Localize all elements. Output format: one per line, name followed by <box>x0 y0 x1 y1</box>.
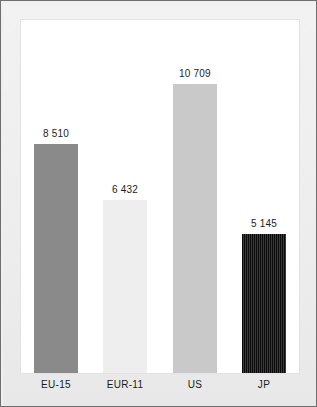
bar-fill-eur-11 <box>103 200 147 373</box>
bar-eur-11[interactable] <box>103 200 147 373</box>
bar-eu-15[interactable] <box>34 144 78 373</box>
bar-fill-jp <box>242 234 286 373</box>
value-label-us: 10 709 <box>155 68 235 79</box>
value-label-eur-11: 6 432 <box>85 184 165 195</box>
bar-chart-figure: 8 510 6 432 10 709 5 145 EU-15 EUR-11 US… <box>0 0 317 407</box>
bar-jp[interactable] <box>242 234 286 373</box>
bar-us[interactable] <box>173 84 217 373</box>
bar-fill-us <box>173 84 217 373</box>
category-label-jp: JP <box>224 379 304 390</box>
category-label-us: US <box>155 379 235 390</box>
value-label-eu-15: 8 510 <box>16 128 96 139</box>
bar-fill-eu-15 <box>34 144 78 373</box>
category-label-eur-11: EUR-11 <box>85 379 165 390</box>
category-label-eu-15: EU-15 <box>16 379 96 390</box>
value-label-jp: 5 145 <box>224 218 304 229</box>
